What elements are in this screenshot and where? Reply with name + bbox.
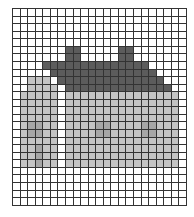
grid-cell-roof[interactable] [157,85,165,93]
grid-cell[interactable] [81,17,89,25]
grid-cell[interactable] [28,62,36,70]
grid-cell-wall[interactable] [149,100,157,108]
grid-cell[interactable] [51,191,59,199]
grid-cell-wall[interactable] [104,107,112,115]
grid-cell[interactable] [74,198,82,206]
grid-cell-wall[interactable] [164,107,172,115]
grid-cell[interactable] [179,39,187,47]
grid-cell[interactable] [51,9,59,17]
grid-cell[interactable] [134,183,142,191]
grid-cell-wall[interactable] [89,138,97,146]
grid-cell[interactable] [13,70,21,78]
grid-cell-wall[interactable] [21,122,29,130]
grid-cell-wall[interactable] [81,138,89,146]
grid-cell-wall[interactable] [28,100,36,108]
grid-cell[interactable] [149,191,157,199]
grid-cell-wall[interactable] [142,100,150,108]
grid-cell[interactable] [164,175,172,183]
grid-cell-wall[interactable] [142,107,150,115]
grid-cell-roof[interactable] [134,70,142,78]
grid-cell[interactable] [104,54,112,62]
grid-cell-wall[interactable] [81,145,89,153]
grid-cell[interactable] [142,17,150,25]
grid-cell-wall[interactable] [142,92,150,100]
grid-cell-wall[interactable] [66,115,74,123]
grid-cell-wall[interactable] [43,107,51,115]
grid-cell[interactable] [164,191,172,199]
grid-cell[interactable] [96,54,104,62]
grid-cell-wall[interactable] [21,130,29,138]
grid-cell[interactable] [28,54,36,62]
grid-cell[interactable] [172,175,180,183]
grid-cell-wall[interactable] [104,115,112,123]
grid-cell-roof[interactable] [58,77,66,85]
grid-cell[interactable] [13,39,21,47]
grid-cell[interactable] [36,191,44,199]
grid-cell-wall[interactable] [21,160,29,168]
grid-cell-wall[interactable] [81,107,89,115]
grid-cell-wall[interactable] [81,122,89,130]
grid-cell-wall[interactable] [74,122,82,130]
grid-cell-wall[interactable] [149,115,157,123]
grid-cell-wall[interactable] [104,160,112,168]
grid-cell[interactable] [43,47,51,55]
grid-cell[interactable] [58,85,66,93]
grid-cell[interactable] [126,39,134,47]
grid-cell-wall[interactable] [164,138,172,146]
grid-cell-wall[interactable] [104,145,112,153]
grid-cell[interactable] [172,9,180,17]
grid-cell[interactable] [134,32,142,40]
grid-cell-wall[interactable] [28,145,36,153]
grid-cell[interactable] [179,17,187,25]
grid-cell[interactable] [179,92,187,100]
grid-cell-roof[interactable] [96,70,104,78]
grid-cell-roof[interactable] [111,70,119,78]
grid-cell-wall[interactable] [51,138,59,146]
grid-cell[interactable] [74,168,82,176]
grid-cell[interactable] [134,47,142,55]
grid-cell-wall[interactable] [126,122,134,130]
grid-cell[interactable] [21,85,29,93]
grid-cell[interactable] [96,175,104,183]
grid-cell-wall[interactable] [74,130,82,138]
grid-cell[interactable] [142,198,150,206]
grid-cell-wall[interactable] [66,160,74,168]
grid-cell[interactable] [179,77,187,85]
grid-cell[interactable] [58,92,66,100]
grid-cell[interactable] [43,32,51,40]
grid-cell[interactable] [66,24,74,32]
grid-cell[interactable] [134,24,142,32]
grid-cell[interactable] [172,85,180,93]
grid-cell-roof[interactable] [66,62,74,70]
grid-cell-wall[interactable] [21,100,29,108]
grid-cell-wall[interactable] [21,107,29,115]
grid-cell[interactable] [58,47,66,55]
grid-cell-roof[interactable] [119,54,127,62]
grid-cell-wall[interactable] [81,115,89,123]
grid-cell[interactable] [51,32,59,40]
grid-cell-wall[interactable] [36,77,44,85]
grid-cell[interactable] [13,153,21,161]
grid-cell[interactable] [96,47,104,55]
grid-cell[interactable] [81,54,89,62]
grid-cell-wall[interactable] [51,107,59,115]
grid-cell[interactable] [58,168,66,176]
grid-cell[interactable] [58,153,66,161]
grid-cell-wall[interactable] [74,100,82,108]
grid-cell[interactable] [58,115,66,123]
grid-cell[interactable] [36,198,44,206]
grid-cell-wall[interactable] [134,107,142,115]
grid-cell-roof[interactable] [74,85,82,93]
grid-cell-wall[interactable] [74,92,82,100]
grid-cell[interactable] [134,54,142,62]
grid-cell[interactable] [58,130,66,138]
grid-cell-window-or-door[interactable] [149,130,157,138]
grid-cell-window-or-door[interactable] [36,122,44,130]
grid-cell-roof[interactable] [81,70,89,78]
grid-cell[interactable] [13,115,21,123]
grid-cell[interactable] [36,62,44,70]
grid-cell-wall[interactable] [81,160,89,168]
grid-cell[interactable] [13,198,21,206]
grid-cell-wall[interactable] [36,100,44,108]
grid-cell-wall[interactable] [104,92,112,100]
